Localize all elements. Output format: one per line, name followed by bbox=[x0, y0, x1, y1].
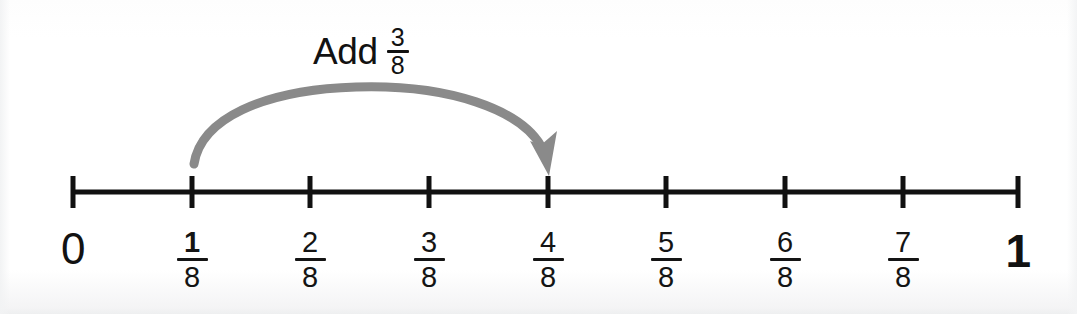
tick-label-5-8-numerator: 5 bbox=[658, 229, 674, 255]
tick-label-4-8-denominator: 8 bbox=[540, 264, 556, 290]
tick-label-7-8-denominator: 8 bbox=[895, 264, 911, 290]
tick-label-4-8-numerator: 4 bbox=[540, 229, 556, 255]
caption-fraction-numerator: 3 bbox=[391, 26, 405, 48]
tick-label-0: 0 bbox=[61, 227, 85, 271]
jump-arrow-arc bbox=[194, 87, 541, 164]
tick-label-7-8: 7 8 bbox=[880, 229, 926, 290]
caption-fraction-denominator: 8 bbox=[391, 55, 405, 77]
tick-label-5-8: 5 8 bbox=[643, 229, 689, 290]
tick-label-1-8: 1 8 bbox=[169, 229, 215, 290]
tick-label-3-8: 3 8 bbox=[406, 229, 452, 290]
jump-arrow-caption: Add 3 8 bbox=[313, 26, 409, 77]
caption-word: Add bbox=[313, 33, 378, 70]
tick-label-3-8-denominator: 8 bbox=[421, 264, 437, 290]
tick-label-2-8: 2 8 bbox=[287, 229, 333, 290]
number-line-figure: Add 3 8 0 1 8 2 8 3 8 4 8 5 8 6 8 bbox=[0, 0, 1077, 314]
tick-label-1-8-denominator: 8 bbox=[184, 264, 200, 290]
tick-label-5-8-denominator: 8 bbox=[658, 264, 674, 290]
caption-fraction: 3 8 bbox=[387, 26, 409, 77]
tick-label-3-8-numerator: 3 bbox=[421, 229, 437, 255]
tick-label-6-8-numerator: 6 bbox=[777, 229, 793, 255]
tick-label-4-8: 4 8 bbox=[525, 229, 571, 290]
tick-label-6-8: 6 8 bbox=[762, 229, 808, 290]
tick-label-1: 1 bbox=[1005, 228, 1030, 274]
tick-label-1-8-numerator: 1 bbox=[184, 229, 200, 255]
tick-label-2-8-numerator: 2 bbox=[302, 229, 318, 255]
tick-label-7-8-numerator: 7 bbox=[895, 229, 911, 255]
jump-arrow-icon bbox=[194, 87, 557, 176]
tick-label-2-8-denominator: 8 bbox=[302, 264, 318, 290]
tick-label-6-8-denominator: 8 bbox=[777, 264, 793, 290]
